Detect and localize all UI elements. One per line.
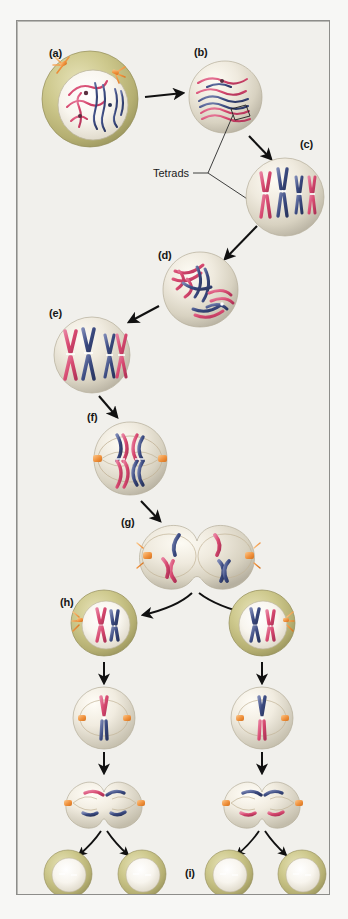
stage-label-b: (b) — [194, 46, 207, 58]
stage-e-cell — [54, 317, 130, 393]
stage-label-e: (e) — [49, 307, 62, 319]
stage-d-cell — [163, 252, 238, 327]
stage-g-cell — [137, 525, 260, 589]
arrow-a-to-b — [145, 93, 183, 97]
arrows-to-gametes — [79, 831, 286, 855]
stage-h-cell-left — [71, 590, 137, 656]
stage-label-c: (c) — [300, 138, 313, 150]
tetrads-callout-label: Tetrads — [153, 167, 189, 179]
telophase-ii-left — [64, 782, 145, 828]
stage-b-cell — [189, 61, 262, 133]
gamete-cell-2 — [118, 850, 166, 894]
arrow-c-to-d — [225, 226, 257, 259]
stage-h-cell-right — [229, 590, 295, 656]
stage-label-f: (f) — [87, 411, 97, 423]
stage-label-g: (g) — [121, 516, 134, 528]
figure-root: (a) (b) (c) (d) (e) (f) (g) (h) (i) Tetr… — [0, 0, 348, 919]
arrow-e-to-f — [99, 396, 117, 417]
stage-a-cell — [42, 51, 138, 147]
gamete-cell-4 — [278, 850, 326, 894]
stage-label-i: (i) — [185, 867, 195, 879]
stage-label-d: (d) — [158, 249, 171, 261]
stage-c-cell — [246, 158, 324, 236]
arrow-d-to-e — [129, 306, 159, 322]
arrow-f-to-g — [141, 501, 160, 521]
telophase-ii-right — [222, 782, 303, 828]
metaphase-ii-left — [73, 687, 135, 749]
stage-label-a: (a) — [49, 47, 62, 59]
meiosis-diagram-svg — [17, 21, 329, 894]
gamete-cell-1 — [44, 850, 92, 894]
stage-f-cell — [93, 422, 167, 495]
gamete-cell-3 — [205, 850, 253, 894]
arrow-b-to-c — [249, 136, 271, 159]
stage-label-h: (h) — [60, 596, 73, 608]
meiosis-figure-panel: (a) (b) (c) (d) (e) (f) (g) (h) (i) Tetr… — [16, 20, 330, 895]
metaphase-ii-right — [231, 687, 293, 749]
